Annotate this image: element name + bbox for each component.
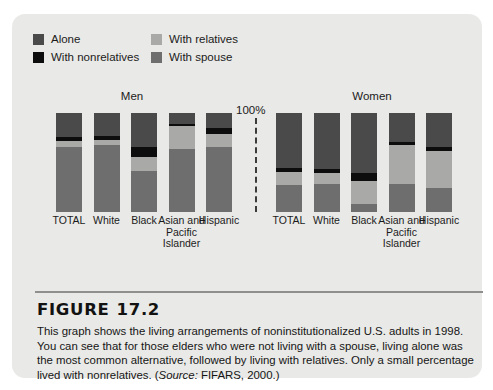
legend-item-with-spouse: With spouse [151,48,281,66]
bar-segment [94,145,120,212]
bar-group [314,113,340,212]
bar-segment [206,113,232,128]
stacked-bar [131,113,157,212]
bar-segment [389,145,415,185]
bar-segment [131,171,157,212]
bar-group [426,113,452,212]
x-axis-tick-label: Hispanic [412,215,466,227]
stacked-bar [426,113,452,212]
bar-group [56,113,82,212]
stacked-bar [351,113,377,212]
bar-segment [56,147,82,212]
axis-top-label: 100% [236,104,265,116]
bar-segment [131,147,157,157]
stacked-bar [314,113,340,212]
bar-segment [389,184,415,212]
stacked-bar [94,113,120,212]
bar-segment [426,113,452,147]
stacked-bar [389,113,415,212]
bar-segment [131,113,157,147]
bar-segment [314,173,340,184]
bar-segment [276,185,302,212]
bar-segment [351,113,377,173]
legend-label-alone: Alone [51,33,80,45]
panel-title-men: Men [72,90,192,102]
x-axis-tick-label: Hispanic [192,215,246,227]
caption-source-label: Source: [159,369,198,381]
legend-label-with-nonrelatives: With nonrelatives [51,51,139,63]
figure-number-value: 17.2 [117,300,161,319]
bar-segment [314,184,340,212]
bar-group [276,113,302,212]
bar-segment [206,147,232,212]
panel-title-women: Women [312,90,432,102]
bar-segment [314,113,340,169]
bar-segment [426,188,452,212]
chart-legend: Alone With relatives With nonrelatives W… [33,30,283,66]
bar-group [169,113,195,212]
legend-label-with-spouse: With spouse [169,51,232,63]
panel-divider-dashed [255,118,257,212]
bar-segment [169,113,195,124]
legend-item-alone: Alone [33,30,151,48]
bar-segment [426,151,452,189]
bar-segment [389,113,415,142]
bar-segment [169,149,195,212]
x-axis-labels-men: TOTALWhiteBlackAsian and Pacific Islande… [42,215,246,271]
stacked-bar [169,113,195,212]
color-swatch-icon-alone [33,34,44,45]
bar-segment [276,172,302,185]
bar-group [131,113,157,212]
stacked-bar [276,113,302,212]
bar-chart-women [276,113,452,212]
color-swatch-icon-with-spouse [151,52,162,63]
caption-source-text: FIFARS, 2000.) [198,369,280,381]
color-swatch-icon-with-relatives [151,34,162,45]
bar-segment [169,126,195,149]
color-swatch-icon-with-nonrelatives [33,52,44,63]
bar-segment [351,204,377,212]
bar-segment [206,134,232,147]
legend-item-with-nonrelatives: With nonrelatives [33,48,151,66]
bar-group [94,113,120,212]
bar-chart-men [56,113,232,212]
figure-number-label: FIGURE [37,300,110,319]
figure-page: Alone With relatives With nonrelatives W… [0,0,493,390]
legend-item-with-relatives: With relatives [151,30,281,48]
x-axis-labels-women: TOTALWhiteBlackAsian and Pacific Islande… [262,215,466,271]
stacked-bar [56,113,82,212]
bar-segment [131,157,157,172]
bar-segment [94,113,120,136]
caption-divider [35,291,483,293]
bar-group [351,113,377,212]
figure-card: Alone With relatives With nonrelatives W… [12,14,482,378]
bar-group [206,113,232,212]
legend-label-with-relatives: With relatives [169,33,238,45]
bar-group [389,113,415,212]
bar-segment [276,113,302,168]
bar-segment [56,113,82,137]
figure-number: FIGURE17.2 [37,300,160,319]
bar-segment [351,173,377,181]
figure-caption: This graph shows the living arrangements… [37,324,480,382]
bar-segment [351,181,377,204]
stacked-bar [206,113,232,212]
